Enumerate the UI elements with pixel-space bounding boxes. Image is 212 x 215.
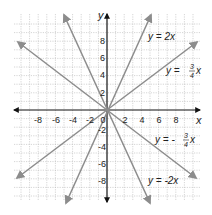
y-tick: -2	[98, 125, 106, 135]
y-tick: 2	[100, 88, 105, 98]
y-tick: -6	[98, 159, 106, 169]
x-tick: -4	[69, 115, 77, 125]
coordinate-plane: -8 -6 -4 -2 0 2 4 6 8 8 6 4 2 -2 -4 -6 -…	[0, 0, 212, 215]
x-axis-label: x	[195, 114, 202, 126]
x-tick: -2	[86, 115, 94, 125]
x-tick: 0	[100, 115, 105, 125]
eq-suffix: x	[195, 65, 202, 76]
frac-numerator: 3	[190, 63, 194, 70]
x-tick: 8	[173, 115, 178, 125]
y-tick: 8	[100, 36, 105, 46]
y-tick: -8	[98, 176, 106, 186]
x-tick: 4	[139, 115, 144, 125]
equation-label-y-neg-3-4x: y = - 3 4 x	[154, 132, 196, 148]
y-tick: 6	[100, 53, 105, 63]
frac-denominator: 4	[190, 72, 194, 79]
frac-numerator: 3	[184, 132, 188, 139]
frac-denominator: 4	[184, 141, 188, 148]
y-tick: 4	[100, 70, 105, 80]
equation-label-y-2x: y = 2x	[147, 31, 176, 42]
x-tick: -8	[34, 115, 42, 125]
eq-prefix: y = -	[154, 134, 175, 145]
y-tick: -4	[98, 142, 106, 152]
equation-label-y-neg-2x: y = -2x	[147, 175, 179, 186]
equation-label-y-3-4x: y = 3 4 x	[165, 63, 202, 79]
eq-suffix: x	[189, 134, 196, 145]
x-tick: 6	[156, 115, 161, 125]
y-axis-label: y	[97, 9, 105, 21]
eq-prefix: y =	[165, 65, 180, 76]
x-tick: -6	[52, 115, 60, 125]
x-tick: 2	[122, 115, 127, 125]
x-tick-labels: -8 -6 -4 -2 0 2 4 6 8	[34, 115, 179, 125]
